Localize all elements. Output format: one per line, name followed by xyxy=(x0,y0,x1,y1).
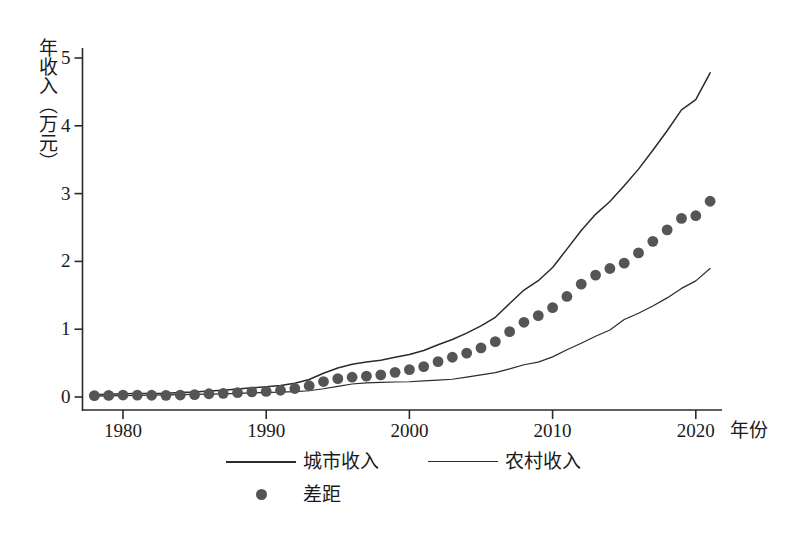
y-tick-label: 5 xyxy=(49,48,71,67)
legend-line-rural xyxy=(428,461,498,462)
data-point xyxy=(232,387,243,398)
data-point xyxy=(146,390,157,401)
y-tick-label: 0 xyxy=(49,387,71,406)
data-point xyxy=(547,302,558,313)
x-tick-label: 1990 xyxy=(247,421,285,440)
data-point xyxy=(375,369,386,380)
data-point xyxy=(304,380,315,391)
data-point xyxy=(690,210,701,221)
data-point xyxy=(103,390,114,401)
data-point xyxy=(562,291,573,302)
data-point xyxy=(433,356,444,367)
data-point xyxy=(418,361,429,372)
data-point xyxy=(175,390,186,401)
legend-label-urban: 城市收入 xyxy=(303,452,379,471)
data-point xyxy=(332,373,343,384)
legend-label-rural: 农村收入 xyxy=(505,452,581,471)
data-point xyxy=(261,386,272,397)
data-point xyxy=(189,389,200,400)
y-tick-label: 3 xyxy=(49,184,71,203)
data-point xyxy=(662,224,673,235)
legend-line-urban xyxy=(226,461,296,463)
data-point xyxy=(705,196,716,207)
series-line-rural xyxy=(94,269,710,397)
data-point xyxy=(604,263,615,274)
data-point xyxy=(576,279,587,290)
data-point xyxy=(161,390,172,401)
data-point xyxy=(390,367,401,378)
series-line-urban xyxy=(94,73,710,395)
data-point xyxy=(404,364,415,375)
legend-dot-gap xyxy=(256,489,267,500)
data-point xyxy=(633,248,644,259)
data-point xyxy=(504,326,515,337)
y-tick-label: 2 xyxy=(49,251,71,270)
x-tick-label: 2020 xyxy=(677,421,715,440)
series-dots-gap xyxy=(89,196,716,401)
chart-figure: 年收入（万元） 012345 19801990200020102020 年份 城… xyxy=(0,0,798,536)
data-point xyxy=(118,390,129,401)
data-point xyxy=(218,388,229,399)
data-point xyxy=(275,385,286,396)
data-point xyxy=(361,371,372,382)
data-point xyxy=(519,317,530,328)
y-tick-label: 1 xyxy=(49,319,71,338)
data-point xyxy=(204,388,215,399)
data-point xyxy=(461,348,472,359)
data-point xyxy=(246,386,257,397)
data-point xyxy=(89,390,100,401)
x-tick-label: 2000 xyxy=(390,421,428,440)
data-point xyxy=(619,258,630,269)
data-point xyxy=(132,390,143,401)
data-point xyxy=(590,270,601,281)
data-point xyxy=(490,336,501,347)
x-tick-label: 1980 xyxy=(104,421,142,440)
chart-plot-area xyxy=(0,0,798,536)
data-point xyxy=(447,352,458,363)
x-axis-title: 年份 xyxy=(730,421,768,440)
x-tick-label: 2010 xyxy=(534,421,572,440)
y-tick-label: 4 xyxy=(49,116,71,135)
data-point xyxy=(647,236,658,247)
data-point xyxy=(318,376,329,387)
data-point xyxy=(533,310,544,321)
legend-label-gap: 差距 xyxy=(303,485,341,504)
data-point xyxy=(676,213,687,224)
data-point xyxy=(289,383,300,394)
data-point xyxy=(476,343,487,354)
data-point xyxy=(347,372,358,383)
